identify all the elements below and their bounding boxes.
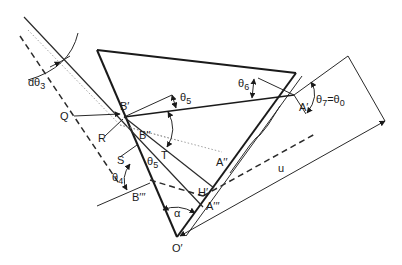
label-theta7-theta0: θ7=θ0 [316,93,345,108]
label-t: T [161,149,168,161]
u-line [180,121,385,236]
exit-ray [294,56,348,95]
label-dtheta3: dθ3 [28,76,45,91]
label-theta4: θ4 [112,171,123,186]
d-theta3-arc [28,33,78,80]
label-a-dprime: A′′ [216,156,227,168]
label-q: Q [60,110,69,122]
internal-ray [124,95,294,117]
label-a-tprime: A′′′ [206,200,220,212]
reflected-ray [124,117,214,188]
label-b-tprime: B′′′ [132,191,146,203]
label-theta5-top: θ5 [180,91,191,106]
label-a-prime: A′ [299,101,308,113]
label-alpha: α [174,207,181,219]
label-b-dprime: B′′ [139,129,150,141]
offset-face-line [186,76,302,236]
q-arrow [74,114,120,116]
label-theta6: θ6 [238,77,249,92]
u-bracket [348,56,385,121]
label-o-prime: O′ [172,242,183,254]
dashed-ray [20,36,120,185]
label-h-prime: H′ [198,186,208,198]
label-r: R [98,132,106,144]
label-b-prime: B′ [120,100,129,112]
prism-triangle [97,50,302,237]
prism-diagram: dθ3 Q R S B′ B′′ B′′′ T A′ A′′ A′′′ H′ O… [0,0,402,265]
label-u: u [278,162,284,174]
label-s: S [117,154,124,166]
